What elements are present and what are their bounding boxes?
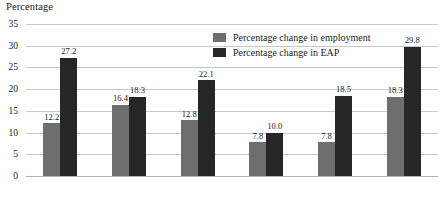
y-axis-tick-label: 0 — [0, 171, 18, 181]
x-axis-category-label: Indian — [185, 204, 211, 205]
gridline — [26, 154, 438, 155]
bar-value-label: 12.8 — [182, 109, 197, 119]
x-axis-category-label: Female — [389, 204, 418, 205]
bar-eap — [335, 96, 352, 176]
y-axis-tick-label: 15 — [0, 106, 18, 116]
bar-group: 16.418.3 — [112, 24, 146, 176]
legend-swatch-icon-eap — [213, 48, 226, 57]
bar-eap — [198, 80, 215, 176]
y-axis-title: Percentage — [6, 1, 53, 12]
bar-group: 12.822.1 — [181, 24, 215, 176]
y-axis-tick-label: 35 — [0, 19, 18, 29]
bar-employment — [181, 120, 198, 176]
legend-label-employment: Percentage change in employment — [233, 32, 370, 43]
bar-value-label: 18.3 — [388, 85, 403, 95]
bar-employment — [112, 105, 129, 176]
axis-baseline — [26, 176, 438, 177]
x-axis-category-label: Male — [325, 204, 346, 205]
legend-item-employment: Percentage change in employment — [213, 31, 370, 44]
y-axis-tick-label: 25 — [0, 62, 18, 72]
bar-employment — [387, 97, 404, 176]
bar-value-label: 22.1 — [199, 69, 214, 79]
bar-value-label: 7.8 — [252, 131, 263, 141]
y-axis-tick-label: 5 — [0, 149, 18, 159]
bar-employment — [43, 123, 60, 176]
bar-employment — [249, 142, 266, 176]
y-axis-tick-label: 20 — [0, 84, 18, 94]
bar-employment — [318, 142, 335, 176]
bar-eap — [266, 133, 283, 176]
legend-label-eap: Percentage change in EAP — [233, 47, 339, 58]
bar-chart: Percentage 05101520253035 12.227.216.418… — [0, 0, 442, 205]
bar-value-label: 18.3 — [130, 85, 145, 95]
bar-value-label: 18.5 — [336, 84, 351, 94]
y-axis-tick-label: 30 — [0, 41, 18, 51]
x-axis-category-label: African — [45, 204, 76, 205]
bar-value-label: 16.4 — [113, 93, 128, 103]
bar-value-label: 29.8 — [405, 35, 420, 45]
gridline — [26, 133, 438, 134]
chart-legend: Percentage change in employment Percenta… — [213, 31, 370, 61]
bar-value-label: 27.2 — [61, 46, 76, 56]
x-axis-category-label: White — [254, 204, 278, 205]
legend-item-eap: Percentage change in EAP — [213, 46, 370, 59]
legend-swatch-icon-employment — [213, 33, 226, 42]
bar-group: 12.227.2 — [43, 24, 77, 176]
gridline — [26, 24, 438, 25]
gridline — [26, 67, 438, 68]
bar-eap — [404, 47, 421, 176]
bar-value-label: 12.2 — [44, 112, 59, 122]
gridline — [26, 89, 438, 90]
gridline — [26, 111, 438, 112]
y-axis-tick-label: 10 — [0, 128, 18, 138]
x-axis-category-label: Coloured — [110, 204, 147, 205]
bar-group: 18.329.8 — [387, 24, 421, 176]
bar-value-label: 7.8 — [321, 131, 332, 141]
bar-value-label: 10.0 — [267, 121, 282, 131]
bar-eap — [129, 97, 146, 176]
bar-eap — [60, 58, 77, 176]
